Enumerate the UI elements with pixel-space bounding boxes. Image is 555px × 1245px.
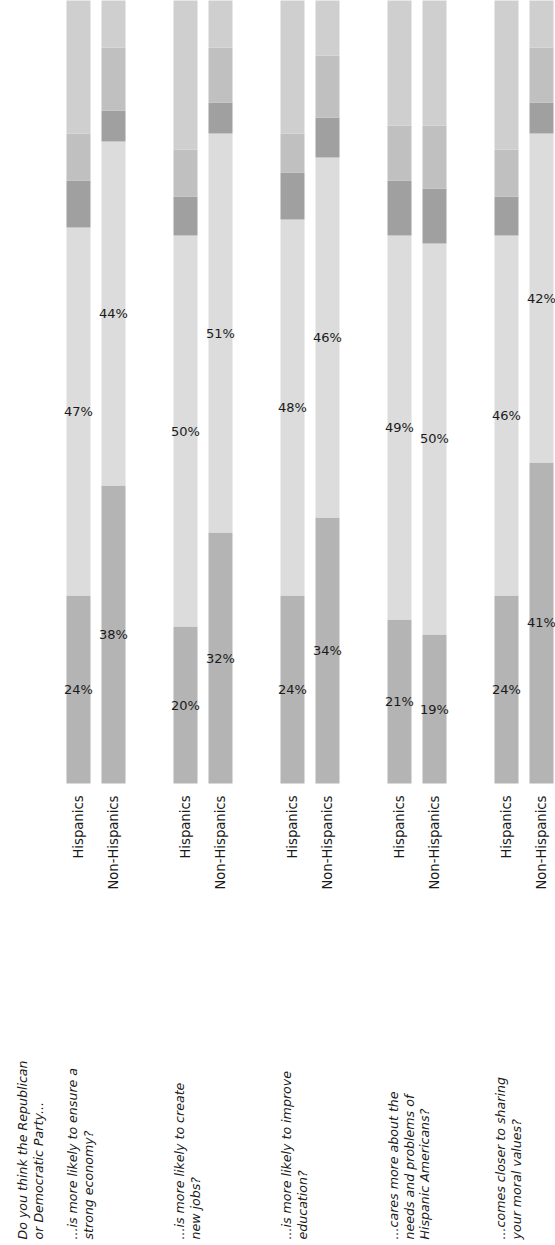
chart-header-question: Do you think the Republican or Democrati… [14,989,45,1239]
bar-segment-neither [208,47,232,102]
bar-segment-republican: 34% [315,517,339,783]
segment-value-label: 19% [420,702,449,715]
bar-segment-both [494,196,518,235]
bar-segment-no-opinion [66,0,90,133]
question-label-column: Do you think the Republican or Democrati… [0,783,545,1245]
segment-value-label: 21% [385,694,414,707]
bar-segment-neither [173,149,197,196]
segment-value-label: 47% [64,405,93,418]
stacked-bar: 41%42% [529,0,553,783]
bar-segment-democratic: 44% [101,141,125,486]
bar-segment-democratic: 50% [173,235,197,627]
series-label-non-hispanics: Non-Hispanics [320,795,334,945]
plot-area: RepublicanDemocraticBothNeitherNo opinio… [0,0,545,783]
bar-segment-both [101,110,125,141]
segment-value-label: 20% [171,698,200,711]
question-text: ...comes closer to sharing your moral va… [492,989,523,1239]
segment-value-label: 48% [278,401,307,414]
bar-segment-republican: 41% [529,462,553,783]
segment-value-label: 41% [527,616,555,629]
bar-segment-republican: 32% [208,532,232,783]
bar-segment-both [66,180,90,227]
segment-value-label: 44% [99,307,128,320]
bar-segment-neither [529,47,553,102]
segment-value-label: 24% [64,683,93,696]
stacked-bar: 38%44% [101,0,125,783]
bar-segment-both [208,102,232,133]
stacked-bar: 24%46% [494,0,518,783]
series-label-hispanics: Hispanics [285,795,299,945]
segment-value-label: 46% [313,330,342,343]
bar-segment-both [422,188,446,243]
segment-value-label: 51% [206,326,235,339]
bar-segment-no-opinion [101,0,125,47]
bar-segment-republican: 20% [173,626,197,783]
stacked-bar: 20%50% [173,0,197,783]
stacked-bar: 34%46% [315,0,339,783]
stacked-bar: 32%51% [208,0,232,783]
bar-segment-both [173,196,197,235]
bar-segment-republican: 21% [387,619,411,783]
bar-segment-neither [387,125,411,180]
segment-value-label: 24% [492,683,521,696]
bar-segment-democratic: 50% [422,243,446,635]
bar-segment-neither [101,47,125,110]
bar-segment-neither [66,133,90,180]
segment-value-label: 34% [313,643,342,656]
bar-segment-neither [315,55,339,118]
bar-segment-democratic: 46% [315,157,339,517]
bar-segment-democratic: 46% [494,235,518,595]
segment-value-label: 50% [171,424,200,437]
bar-segment-republican: 38% [101,485,125,783]
bar-segment-both [315,117,339,156]
question-text: ...is more likely to ensure a strong eco… [64,989,95,1239]
bar-segment-no-opinion [494,0,518,149]
segment-value-label: 32% [206,651,235,664]
segment-value-label: 38% [99,628,128,641]
bar-segment-republican: 24% [280,595,304,783]
bar-segment-no-opinion [280,0,304,133]
bar-segment-both [280,172,304,219]
segment-value-label: 46% [492,409,521,422]
series-label-hispanics: Hispanics [71,795,85,945]
bar-segment-democratic: 49% [387,235,411,619]
bar-segment-democratic: 51% [208,133,232,532]
segment-value-label: 24% [278,683,307,696]
series-label-non-hispanics: Non-Hispanics [534,795,548,945]
bar-segment-republican: 24% [66,595,90,783]
series-label-hispanics: Hispanics [392,795,406,945]
stacked-bar: 24%47% [66,0,90,783]
bar-segment-republican: 24% [494,595,518,783]
question-text: ...cares more about the needs and proble… [385,989,432,1239]
bar-segment-neither [280,133,304,172]
bar-segment-both [387,180,411,235]
bar-segment-no-opinion [529,0,553,47]
stacked-bar: 19%50% [422,0,446,783]
segment-value-label: 42% [527,291,555,304]
bar-segment-no-opinion [315,0,339,55]
series-label-non-hispanics: Non-Hispanics [106,795,120,945]
bar-segment-no-opinion [208,0,232,47]
question-text: ...is more likely to create new jobs? [171,989,202,1239]
bar-segment-democratic: 47% [66,227,90,595]
stacked-bar: 24%48% [280,0,304,783]
segment-value-label: 50% [420,432,449,445]
bar-segment-no-opinion [387,0,411,125]
bar-segment-democratic: 42% [529,133,553,462]
bar-segment-democratic: 48% [280,219,304,595]
segment-value-label: 49% [385,420,414,433]
bar-segment-both [529,102,553,133]
bar-segment-neither [494,149,518,196]
bar-segment-no-opinion [173,0,197,149]
series-label-hispanics: Hispanics [499,795,513,945]
bar-segment-republican: 19% [422,634,446,783]
series-label-non-hispanics: Non-Hispanics [213,795,227,945]
bar-segment-no-opinion [422,0,446,125]
question-text: ...is more likely to improve education? [278,989,309,1239]
series-label-hispanics: Hispanics [178,795,192,945]
bar-segment-neither [422,125,446,188]
series-label-non-hispanics: Non-Hispanics [427,795,441,945]
stacked-bar: 21%49% [387,0,411,783]
